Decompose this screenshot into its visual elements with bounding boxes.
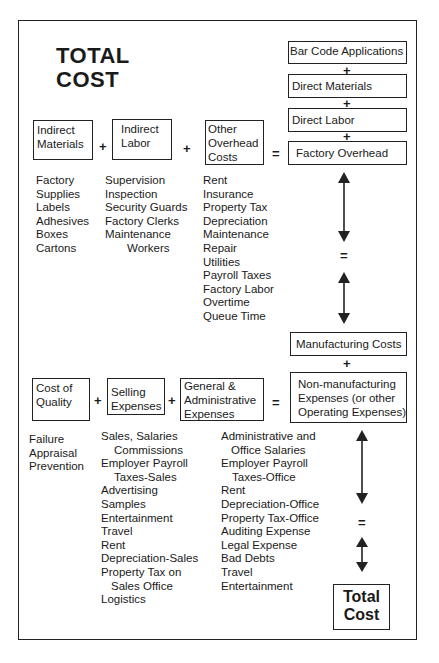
list-item: Employer Payroll — [221, 457, 319, 471]
list-item: Depreciation-Office — [221, 498, 319, 512]
equals-operator: = — [340, 249, 348, 263]
list-item: Labels — [36, 201, 89, 215]
list-item: Travel — [221, 566, 319, 580]
box-label: Total — [338, 588, 385, 606]
plus-operator: + — [343, 357, 351, 371]
box-label: Factory Overhead — [296, 147, 388, 159]
cost-of-quality-list: Failure Appraisal Prevention — [29, 433, 84, 474]
title-line-1: TOTAL — [56, 44, 130, 68]
box-label: General & — [184, 379, 260, 393]
list-item: Administrative and — [221, 430, 319, 444]
box-label: Direct Labor — [292, 114, 355, 126]
list-item: Entertainment — [101, 512, 198, 526]
list-item: Legal Expense — [221, 539, 319, 553]
box-label: Other — [208, 122, 261, 136]
list-item: Queue Time — [203, 310, 274, 324]
box-label: Administrative — [184, 393, 260, 407]
list-item: Prevention — [29, 460, 84, 474]
list-item: Workers — [105, 242, 187, 256]
indirect-labor-box: Indirect Labor — [112, 119, 172, 160]
list-item: Security Guards — [105, 201, 187, 215]
plus-operator: + — [99, 140, 107, 154]
list-item: Employer Payroll — [101, 457, 198, 471]
list-item: Property Tax on — [101, 566, 198, 580]
list-item: Travel — [101, 525, 198, 539]
list-item: Factory Labor — [203, 283, 274, 297]
box-label: Expenses — [111, 399, 161, 413]
list-item: Repair — [203, 242, 274, 256]
equals-operator: = — [272, 396, 280, 410]
selling-expenses-list: Sales, Salaries Commissions Employer Pay… — [101, 430, 198, 607]
plus-operator: + — [168, 394, 176, 408]
total-cost-box: Total Cost — [333, 584, 390, 630]
box-label: Labor — [121, 136, 168, 150]
list-item: Logistics — [101, 593, 198, 607]
list-item: Failure — [29, 433, 84, 447]
box-label: Non-manufacturing — [298, 377, 403, 391]
list-item: Samples — [101, 498, 198, 512]
list-item: Taxes-Office — [221, 471, 319, 485]
list-item: Supplies — [36, 188, 89, 202]
box-label: Bar Code Applications — [290, 45, 403, 57]
box-label: Overhead — [208, 136, 261, 150]
equals-operator: = — [358, 516, 366, 530]
list-item: Depreciation-Sales — [101, 552, 198, 566]
cost-of-quality-box: Cost of Quality — [32, 378, 90, 421]
list-item: Factory Clerks — [105, 215, 187, 229]
double-arrow-icon — [337, 172, 351, 242]
box-label: Indirect — [121, 122, 168, 136]
list-item: Entertainment — [221, 580, 319, 594]
equals-operator: = — [272, 147, 280, 161]
list-item: Rent — [101, 539, 198, 553]
indirect-materials-list: Factory Supplies Labels Adhesives Boxes … — [36, 174, 89, 256]
title-line-2: COST — [56, 68, 130, 92]
list-item: Bad Debts — [221, 552, 319, 566]
list-item: Utilities — [203, 256, 274, 270]
double-arrow-icon — [355, 430, 369, 504]
box-label: Selling — [111, 385, 161, 399]
double-arrow-icon — [355, 537, 369, 572]
box-label: Expenses (or other — [298, 391, 403, 405]
list-item: Appraisal — [29, 447, 84, 461]
box-label: Quality — [36, 395, 86, 409]
box-label: Materials — [37, 137, 89, 151]
list-item: Property Tax — [203, 201, 274, 215]
diagram-title: TOTAL COST — [56, 44, 130, 92]
list-item: Inspection — [105, 188, 187, 202]
list-item: Office Salaries — [221, 444, 319, 458]
list-item: Boxes — [36, 228, 89, 242]
non-manufacturing-expenses-box: Non-manufacturing Expenses (or other Ope… — [290, 372, 407, 423]
double-arrow-icon — [337, 272, 351, 324]
list-item: Factory — [36, 174, 89, 188]
factory-overhead-box: Factory Overhead — [288, 141, 407, 165]
direct-materials-box: Direct Materials — [288, 74, 407, 98]
indirect-labor-list: Supervision Inspection Security Guards F… — [105, 174, 187, 256]
list-item: Sales, Salaries — [101, 430, 198, 444]
selling-expenses-box: Selling Expenses — [107, 378, 165, 415]
general-administrative-box: General & Administrative Expenses — [180, 378, 264, 421]
other-overhead-costs-box: Other Overhead Costs — [205, 120, 264, 165]
list-item: Depreciation — [203, 215, 274, 229]
box-label: Expenses — [184, 407, 260, 421]
list-item: Taxes-Sales — [101, 471, 198, 485]
box-label: Cost — [338, 606, 385, 624]
list-item: Adhesives — [36, 215, 89, 229]
list-item: Maintenance — [203, 228, 274, 242]
box-label: Manufacturing Costs — [296, 338, 401, 350]
plus-operator: + — [94, 394, 102, 408]
box-label: Operating Expenses) — [298, 405, 403, 419]
list-item: Commissions — [101, 444, 198, 458]
list-item: Rent — [221, 484, 319, 498]
list-item: Insurance — [203, 188, 274, 202]
list-item: Property Tax-Office — [221, 512, 319, 526]
list-item: Maintenance — [105, 228, 187, 242]
general-admin-list: Administrative and Office Salaries Emplo… — [221, 430, 319, 593]
list-item: Overtime — [203, 296, 274, 310]
list-item: Cartons — [36, 242, 89, 256]
box-label: Direct Materials — [292, 80, 372, 92]
bar-code-applications-box: Bar Code Applications — [288, 41, 407, 64]
list-item: Auditing Expense — [221, 525, 319, 539]
box-label: Costs — [208, 150, 261, 164]
list-item: Supervision — [105, 174, 187, 188]
box-label: Cost of — [36, 381, 86, 395]
